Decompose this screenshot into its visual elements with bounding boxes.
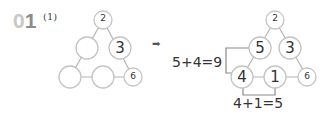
right-node-mid-right: 3: [279, 39, 301, 57]
right-node-mid-left: 5: [249, 39, 271, 57]
node-value: 6: [304, 71, 310, 81]
left-node-mid-right: 3: [109, 39, 131, 57]
equation-bottom: 4+1=5: [233, 96, 283, 110]
equation-left: 5+4=9: [172, 55, 222, 69]
node-value: 1: [270, 68, 280, 86]
left-node-top: 2: [94, 13, 112, 23]
node-value: 2: [100, 13, 106, 23]
right-node-bottom-right: 6: [298, 71, 316, 81]
node-value: 3: [285, 39, 295, 57]
node-value: 4: [237, 68, 247, 86]
right-node-top: 2: [266, 13, 284, 23]
bottom-sum-bracket: [243, 88, 275, 95]
node-value: 2: [272, 13, 278, 23]
right-node-bottom-left: 4: [231, 68, 253, 86]
node-value: 6: [130, 71, 136, 81]
arrow-right-icon: ➡: [152, 38, 160, 49]
node-value: 5: [255, 39, 265, 57]
right-node-bottom-mid: 1: [264, 68, 286, 86]
node-value: 3: [115, 39, 125, 57]
left-node-bottom-right: 6: [124, 71, 142, 81]
